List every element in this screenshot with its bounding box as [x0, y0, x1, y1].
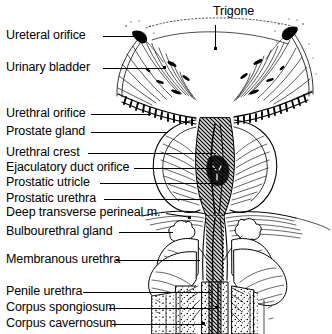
leader-urethral-orifice [91, 114, 151, 115]
leader-dot-corpus-spongiosum [215, 306, 218, 309]
leader-dot-trigone [214, 47, 217, 50]
label-prostate-gland: Prostate gland [6, 125, 85, 138]
label-urinary-bladder: Urinary bladder [6, 61, 90, 74]
leader-membranous-urethra [116, 260, 200, 261]
label-corpus-spongiosum: Corpus spongiosum [6, 301, 115, 314]
leader-bulbourethral-gland [119, 232, 173, 233]
leader-dot-urinary-bladder [163, 66, 166, 69]
leader-trigone [215, 25, 216, 49]
leader-dot-corpus-cavernosum [202, 322, 205, 325]
label-ejaculatory-duct-orifice: Ejaculatory duct orifice [6, 161, 129, 174]
label-ureteral-orifice: Ureteral orifice [6, 29, 86, 42]
label-prostatic-urethra: Prostatic urethra [6, 192, 96, 205]
label-corpus-cavernosum: Corpus cavernosum [6, 317, 116, 330]
leader-penile-urethra [83, 292, 211, 293]
label-deep-transverse-perineal: Deep transverse perineal m. [6, 206, 160, 219]
label-membranous-urethra: Membranous urethra [6, 253, 120, 266]
leader-ureteral-orifice [103, 36, 135, 37]
leader-corpus-spongiosum [109, 308, 217, 309]
leader-corpus-cavernosum [112, 324, 204, 325]
leader-dot-deep-transverse-perineal [188, 216, 191, 219]
label-urethral-crest: Urethral crest [6, 146, 80, 159]
label-trigone: Trigone [213, 5, 254, 18]
leader-urinary-bladder [103, 68, 165, 69]
leader-prostate-gland [91, 132, 168, 133]
bulbourethral-gland-right [235, 219, 261, 242]
label-bulbourethral-gland: Bulbourethral gland [6, 225, 113, 238]
leader-prostatic-utricle [100, 183, 217, 184]
label-prostatic-utricle: Prostatic utricle [6, 176, 90, 189]
leader-ejaculatory-duct-orifice [134, 168, 216, 169]
leader-urethral-crest [88, 153, 216, 154]
anatomy-figure: Trigone Ureteral orifice Urinary bladder… [0, 0, 332, 334]
label-penile-urethra: Penile urethra [6, 285, 82, 298]
leader-prostatic-urethra [104, 199, 202, 200]
ureteral-orifice-left [132, 30, 163, 62]
label-urethral-orifice: Urethral orifice [6, 107, 86, 120]
